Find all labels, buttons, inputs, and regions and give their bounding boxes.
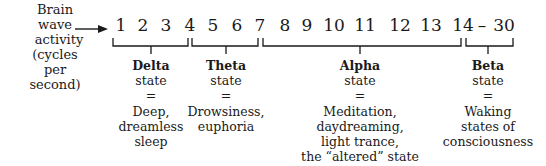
state-name: Alpha [301, 58, 419, 73]
state-text: Drowsiness, [188, 104, 265, 119]
bracket-theta [192, 38, 258, 54]
scale-number: 30 [493, 15, 515, 35]
state-text: light trance, [301, 134, 419, 149]
scale-number: 13 [420, 15, 442, 35]
scale-number: 2 [138, 15, 149, 35]
scale-number: 12 [389, 15, 411, 35]
scale-number: 11 [354, 15, 376, 35]
scale-number: 10 [323, 15, 345, 35]
bracket-alpha [263, 38, 461, 54]
scale-number: – [478, 15, 487, 35]
bracket-delta [113, 38, 188, 54]
state-name: Delta [119, 58, 184, 73]
state-beta: Betastate=Wakingstates ofconsciousness [443, 58, 533, 149]
state-text: = [119, 88, 184, 103]
scale-number: 6 [232, 15, 243, 35]
scale-number: 8 [280, 15, 291, 35]
state-text: euphoria [188, 119, 265, 134]
scale-number: 5 [208, 15, 219, 35]
state-text: state [188, 73, 265, 88]
state-alpha: Alphastate=Meditation,daydreaming,light … [301, 58, 419, 164]
state-text: state [301, 73, 419, 88]
state-text: state [443, 73, 533, 88]
state-text: = [188, 88, 265, 103]
state-text: consciousness [443, 134, 533, 149]
state-text: = [301, 88, 419, 103]
scale-number: 4 [185, 15, 196, 35]
state-name: Beta [443, 58, 533, 73]
scale-number: 14 [452, 15, 474, 35]
state-text: states of [443, 119, 533, 134]
scale-number: 3 [161, 15, 172, 35]
arrow-icon [75, 25, 108, 33]
state-text: state [119, 73, 184, 88]
scale-number: 7 [255, 15, 266, 35]
state-text: the “altered” state [301, 149, 419, 164]
state-text: = [443, 88, 533, 103]
state-text: Waking [443, 104, 533, 119]
bracket-beta [466, 38, 513, 54]
scale-number: 1 [116, 15, 127, 35]
state-name: Theta [188, 58, 265, 73]
state-text: daydreaming, [301, 119, 419, 134]
state-theta: Thetastate=Drowsiness,euphoria [188, 58, 265, 134]
state-delta: Deltastate=Deep,dreamlesssleep [119, 58, 184, 149]
scale-number: 9 [302, 15, 313, 35]
state-text: Deep, [119, 104, 184, 119]
state-text: sleep [119, 134, 184, 149]
state-text: Meditation, [301, 104, 419, 119]
state-text: dreamless [119, 119, 184, 134]
